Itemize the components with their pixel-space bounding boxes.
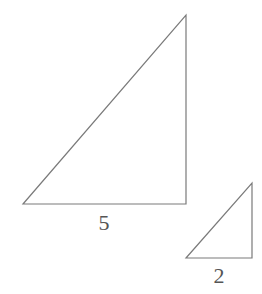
large-triangle: [23, 15, 186, 204]
large-triangle-base-label: 5: [99, 212, 110, 234]
small-triangle-base-label: 2: [214, 265, 225, 287]
small-triangle: [186, 183, 252, 258]
triangles-figure: [0, 0, 262, 294]
similar-triangles-diagram: 5 2: [0, 0, 262, 294]
